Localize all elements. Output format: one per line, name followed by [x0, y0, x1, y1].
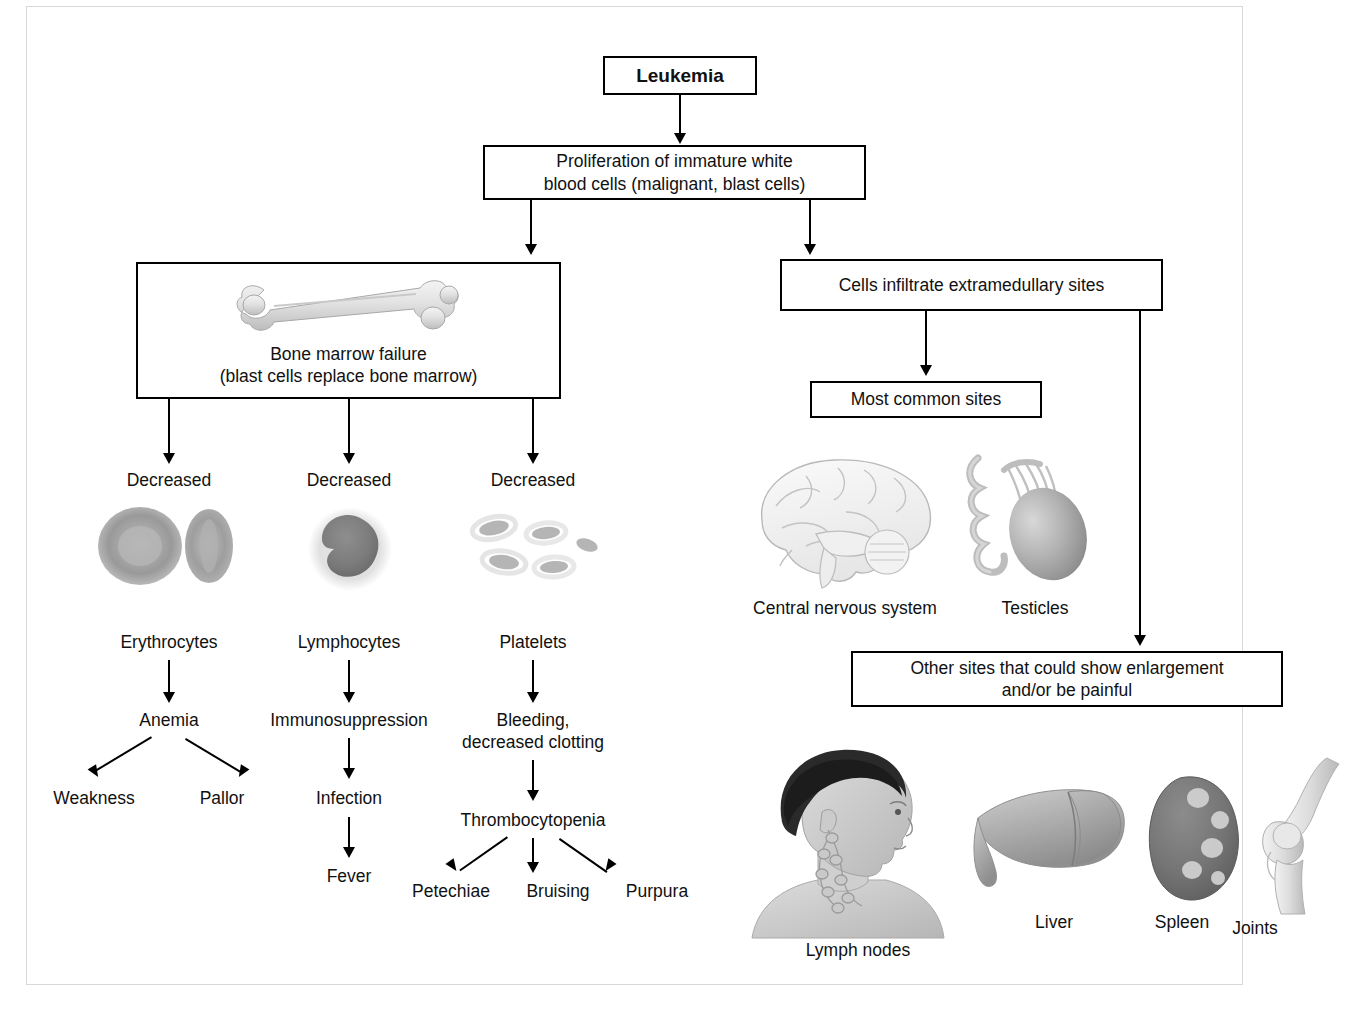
label-decreased-erythrocytes: Decreased [127, 470, 212, 492]
label-weakness: Weakness [53, 788, 134, 810]
arrowhead-proliferation [674, 133, 686, 144]
node-other-sites-label: Other sites that could show enlargement … [902, 657, 1231, 701]
node-cells-infiltrate-label: Cells infiltrate extramedullary sites [831, 274, 1113, 296]
node-most-common-sites-label: Most common sites [843, 388, 1010, 410]
caption-liver: Liver [1035, 912, 1073, 933]
arrowhead-bleeding [527, 692, 539, 703]
arrowhead-fever [343, 847, 355, 858]
caption-testicles: Testicles [1001, 598, 1068, 619]
label-petechiae: Petechiae [412, 881, 490, 903]
caption-spleen: Spleen [1155, 912, 1210, 933]
label-thrombocytopenia: Thrombocytopenia [461, 810, 606, 832]
connector-immuno-infection [348, 738, 350, 770]
arrowhead-col3 [527, 453, 539, 464]
knee-joint-icon [1255, 756, 1345, 916]
connector-platelets-bleeding [532, 660, 534, 694]
node-most-common-sites: Most common sites [810, 381, 1042, 418]
head-neck-lymph-nodes-icon [744, 748, 974, 940]
label-pallor: Pallor [200, 788, 245, 810]
connector-erythrocytes-anemia [168, 660, 170, 694]
label-immunosuppression: Immunosuppression [270, 710, 428, 732]
arrowhead-other-sites [1134, 635, 1146, 646]
label-lymphocytes: Lymphocytes [298, 632, 400, 654]
arrowhead-most-common [920, 365, 932, 376]
connector-infiltrate-most-common [925, 311, 927, 367]
connector-infiltrate-other-sites [1139, 311, 1141, 637]
node-bone-marrow-failure-label: Bone marrow failure (blast cells replace… [212, 343, 486, 387]
platelets-icon [468, 512, 608, 584]
label-erythrocytes: Erythrocytes [120, 632, 217, 654]
connector-bonemarrow-col3 [532, 399, 534, 455]
arrowhead-infiltrate [804, 244, 816, 255]
node-cells-infiltrate: Cells infiltrate extramedullary sites [780, 259, 1163, 311]
node-proliferation-label: Proliferation of immature white blood ce… [536, 150, 814, 194]
lymphocyte-icon [300, 503, 400, 595]
connector-lymphocytes-immuno [348, 660, 350, 694]
testicle-icon [948, 450, 1098, 598]
connector-bonemarrow-col2 [348, 399, 350, 455]
spleen-icon [1140, 772, 1250, 904]
connector-proliferation-to-infiltrate [809, 200, 811, 246]
erythrocyte-icon [96, 505, 246, 587]
figure-canvas: Leukemia Proliferation of immature white… [0, 0, 1349, 1021]
connector-leukemia-to-proliferation [679, 95, 681, 135]
node-proliferation: Proliferation of immature white blood ce… [483, 145, 866, 200]
arrowhead-bruising [527, 862, 539, 873]
arrowhead-anemia [163, 692, 175, 703]
label-anemia: Anemia [139, 710, 198, 732]
arrowhead-immunosuppression [343, 692, 355, 703]
arrowhead-thrombocytopenia [527, 790, 539, 801]
label-purpura: Purpura [626, 881, 688, 903]
node-bone-marrow-failure: Bone marrow failure (blast cells replace… [136, 262, 561, 399]
long-bone-icon [230, 274, 470, 336]
label-decreased-lymphocytes: Decreased [307, 470, 392, 492]
label-bleeding: Bleeding, decreased clotting [462, 710, 604, 754]
label-infection: Infection [316, 788, 382, 810]
caption-central-nervous-system: Central nervous system [753, 598, 937, 619]
label-fever: Fever [327, 866, 372, 888]
liver-icon [972, 782, 1132, 902]
arrowhead-col1 [163, 453, 175, 464]
node-other-sites: Other sites that could show enlargement … [851, 651, 1283, 707]
connector-proliferation-to-bonemarrow [530, 200, 532, 246]
label-decreased-platelets: Decreased [491, 470, 576, 492]
node-leukemia: Leukemia [603, 56, 757, 95]
brain-icon [746, 450, 946, 598]
node-leukemia-label: Leukemia [628, 64, 732, 88]
arrowhead-bonemarrow [525, 244, 537, 255]
caption-lymph-nodes: Lymph nodes [806, 940, 910, 961]
connector-infection-fever [348, 817, 350, 849]
connector-bonemarrow-col1 [168, 399, 170, 455]
label-bruising: Bruising [526, 881, 589, 903]
caption-joints: Joints [1232, 918, 1278, 939]
label-platelets: Platelets [499, 632, 566, 654]
connector-bleeding-thrombocytopenia [532, 760, 534, 792]
arrowhead-col2 [343, 453, 355, 464]
arrowhead-infection [343, 768, 355, 779]
